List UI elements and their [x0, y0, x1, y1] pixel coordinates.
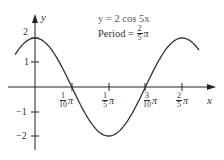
equation-annotation: y = 2 cos 5x: [98, 13, 149, 25]
y-axis-arrow-icon: [32, 14, 38, 23]
y-tick-label-2: 2: [23, 27, 28, 37]
x-tick-label-tenth-pi: 110 π: [59, 92, 73, 109]
x-axis-arrow-icon: [207, 84, 216, 90]
y-tick-label-neg2: −2: [16, 131, 27, 141]
x-tick-label-three-tenths-pi: 310 π: [143, 92, 157, 109]
y-tick-label-1: 1: [24, 57, 29, 67]
y-tick-label-neg1: −1: [16, 107, 27, 117]
period-annotation: Period = 25 π: [98, 25, 149, 42]
x-tick-label-fifth-pi: 15 π: [102, 92, 114, 109]
x-axis-label: x: [207, 94, 212, 106]
y-axis-label: y: [41, 11, 46, 23]
x-tick-label-two-fifths-pi: 25 π: [176, 92, 188, 109]
